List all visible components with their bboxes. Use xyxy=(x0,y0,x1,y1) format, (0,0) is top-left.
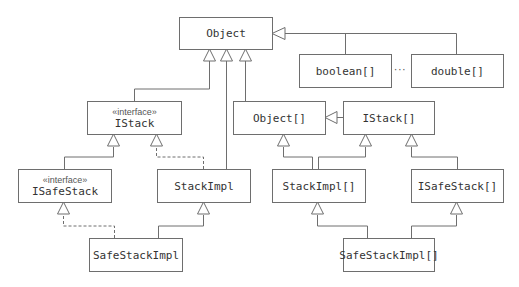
class-name: Object xyxy=(206,27,246,40)
class-safestackimpl[interactable]: SafeStackImpl xyxy=(89,238,183,272)
triangle-arrow-icon xyxy=(108,134,120,146)
safestackimplarray-to-stackimplarray-line xyxy=(318,215,368,238)
class-name: SafeStackImpl[] xyxy=(339,249,438,262)
class-name: boolean[] xyxy=(316,65,376,78)
triangle-arrow-icon xyxy=(151,134,163,146)
class-name: double[] xyxy=(431,65,484,78)
class-object-array[interactable]: Object[] xyxy=(233,101,326,135)
class-object[interactable]: Object xyxy=(179,17,273,50)
class-boolean-array[interactable]: boolean[] xyxy=(299,54,392,88)
class-diagram: Object boolean[] ··· double[] «interface… xyxy=(0,0,519,287)
triangle-arrow-icon xyxy=(272,28,285,40)
triangle-arrow-icon xyxy=(198,202,210,214)
stereotype-label: «interface» xyxy=(112,107,157,117)
class-name: ISafeStack[] xyxy=(418,180,497,193)
triangle-arrow-icon xyxy=(325,112,337,124)
class-name: IStack[] xyxy=(363,112,416,125)
triangle-arrow-icon xyxy=(312,202,324,214)
interface-istack[interactable]: «interface» IStack xyxy=(87,101,182,135)
class-safestackimpl-array[interactable]: SafeStackImpl[] xyxy=(343,238,435,272)
safestackimpl-realizes-isafestack-line xyxy=(64,215,115,238)
double-array-to-object-line xyxy=(285,34,457,55)
class-stackimpl[interactable]: StackImpl xyxy=(157,169,251,203)
class-name: StackImpl xyxy=(174,180,234,193)
class-name: Object[] xyxy=(253,112,306,125)
class-istack-array[interactable]: IStack[] xyxy=(343,101,435,135)
stackimplarray-to-objectarray-line xyxy=(284,147,313,169)
class-name: IStack xyxy=(115,117,155,130)
triangle-arrow-icon xyxy=(221,49,233,61)
class-double-array[interactable]: double[] xyxy=(411,54,504,88)
triangle-arrow-icon xyxy=(58,202,70,214)
stackimplarray-to-istackarray-line xyxy=(319,147,366,169)
isafestackarray-to-istackarray-line xyxy=(412,147,458,169)
triangle-arrow-icon xyxy=(360,134,372,146)
safestackimpl-to-stackimpl-line xyxy=(159,215,204,238)
stereotype-label: «interface» xyxy=(43,175,88,185)
class-stackimpl-array[interactable]: StackImpl[] xyxy=(272,169,366,203)
class-name: SafeStackImpl xyxy=(93,249,179,262)
class-name: StackImpl[] xyxy=(283,180,356,193)
triangle-arrow-icon xyxy=(204,49,216,61)
triangle-arrow-icon xyxy=(240,49,252,61)
istack-to-object-line xyxy=(135,61,210,101)
class-name: ISafeStack xyxy=(32,185,98,198)
class-isafestack-array[interactable]: ISafeStack[] xyxy=(411,169,504,203)
triangle-arrow-icon xyxy=(278,134,290,146)
ellipsis: ··· xyxy=(394,64,407,75)
stackimpl-realizes-istack-line xyxy=(157,147,204,169)
isafestack-to-istack-line xyxy=(65,147,114,169)
safestackimplarray-to-isafestackarray-line xyxy=(412,215,457,238)
interface-isafestack[interactable]: «interface» ISafeStack xyxy=(18,169,112,203)
triangle-arrow-icon xyxy=(451,202,463,214)
triangle-arrow-icon xyxy=(406,134,418,146)
